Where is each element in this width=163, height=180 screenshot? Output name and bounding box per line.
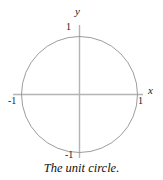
y-axis-tick-label-positive-one: 1 [66,22,71,32]
unit-circle-plot [0,0,163,162]
unit-circle-figure: y x 1 -1 1 -1 The unit circle. [0,0,163,180]
x-axis-label: x [148,85,153,96]
x-axis-tick-label-negative-one: -1 [8,96,16,106]
figure-caption: The unit circle. [0,161,163,176]
x-axis-tick-label-positive-one: 1 [138,96,143,106]
y-axis-tick-label-negative-one: -1 [65,150,73,160]
y-axis-label: y [75,6,80,17]
